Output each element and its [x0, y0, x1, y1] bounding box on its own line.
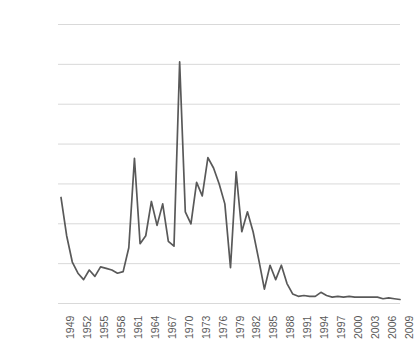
x-axis-tick-label: 1952: [82, 315, 93, 338]
x-axis-tick-label: 1994: [319, 315, 330, 338]
x-axis-tick-label: 1967: [167, 315, 178, 338]
x-axis-tick-label: 1991: [302, 315, 313, 338]
x-axis-tick-label: 2006: [387, 315, 398, 338]
x-axis-tick-label: 1949: [65, 315, 76, 338]
x-axis-tick-label: 1955: [99, 315, 110, 338]
x-axis-tick-label: 1973: [201, 315, 212, 338]
x-axis-tick-label: 2003: [370, 315, 381, 338]
x-axis-tick-label: 1997: [336, 315, 347, 338]
x-axis-tick-label: 1982: [251, 315, 262, 338]
x-axis-tick-label: 1964: [150, 315, 161, 338]
x-axis-tick-label: 1958: [116, 315, 127, 338]
x-axis-tick-label: 1976: [218, 315, 229, 338]
x-axis-tick-label: 1961: [133, 315, 144, 338]
x-axis-tick-label: 2009: [404, 315, 415, 338]
x-axis-tick-label: 1988: [285, 315, 296, 338]
x-axis-tick-label: 1979: [235, 315, 246, 338]
x-axis-tick-labels: 1949195219551958196119641967197019731976…: [0, 0, 416, 353]
x-axis-tick-label: 1985: [268, 315, 279, 338]
x-axis-tick-label: 1970: [184, 315, 195, 338]
x-axis-tick-label: 2000: [353, 315, 364, 338]
line-chart: 350,000300,000250,000200,000150,000100,0…: [0, 0, 416, 353]
